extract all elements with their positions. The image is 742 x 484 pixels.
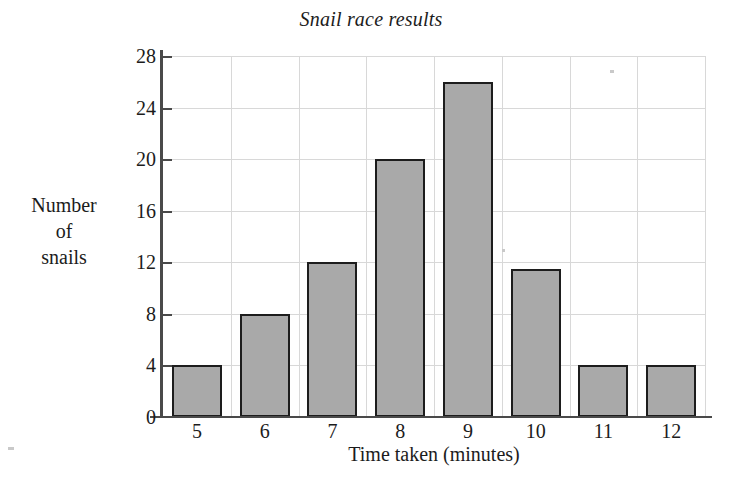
x-tick-label: 11 — [573, 419, 633, 443]
x-tick-label: 12 — [641, 419, 701, 443]
y-tick-label: 20 — [110, 149, 156, 169]
bar-9 — [443, 82, 493, 417]
gridline-vertical — [299, 56, 300, 417]
gridline-vertical — [705, 56, 706, 417]
bar-10 — [511, 269, 561, 417]
x-axis-line — [150, 416, 712, 418]
x-tick-label: 8 — [370, 419, 430, 443]
y-tick-label: 4 — [110, 355, 156, 375]
x-tick-label: 10 — [506, 419, 566, 443]
y-tick-label: 24 — [110, 98, 156, 118]
y-tick-mark — [163, 314, 172, 316]
y-axis-title: Numberofsnails — [8, 192, 120, 270]
scan-speck — [502, 249, 505, 252]
scan-speck — [8, 447, 14, 450]
gridline-vertical — [366, 56, 367, 417]
gridline-vertical — [231, 56, 232, 417]
y-axis-title-line: Number — [8, 192, 120, 218]
gridline-vertical — [502, 56, 503, 417]
bar-12 — [646, 365, 696, 417]
x-tick-label: 7 — [302, 419, 362, 443]
y-tick-label: 28 — [110, 46, 156, 66]
bar-8 — [375, 159, 425, 417]
x-tick-label: 6 — [235, 419, 295, 443]
gridline-vertical — [637, 56, 638, 417]
plot-area — [163, 56, 705, 417]
x-tick-label: 9 — [438, 419, 498, 443]
y-axis-line — [160, 50, 163, 418]
y-axis-title-line: of — [8, 218, 120, 244]
y-tick-mark — [163, 159, 172, 161]
y-tick-label: 8 — [110, 304, 156, 324]
y-tick-mark — [163, 108, 172, 110]
y-tick-mark — [163, 56, 172, 58]
x-axis-title: Time taken (minutes) — [163, 443, 705, 466]
y-tick-mark — [163, 262, 172, 264]
y-tick-mark — [163, 365, 172, 367]
bar-5 — [172, 365, 222, 417]
bar-7 — [307, 262, 357, 417]
y-tick-mark — [163, 211, 172, 213]
snail-race-bar-chart: Snail race results 0481216202428 5678910… — [0, 0, 742, 484]
y-axis-title-line: snails — [8, 244, 120, 270]
gridline-vertical — [434, 56, 435, 417]
scan-speck — [610, 70, 614, 73]
gridline-vertical — [570, 56, 571, 417]
x-tick-label: 5 — [167, 419, 227, 443]
bar-11 — [578, 365, 628, 417]
bar-6 — [240, 314, 290, 417]
